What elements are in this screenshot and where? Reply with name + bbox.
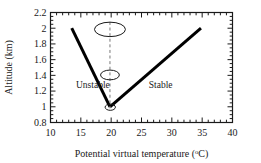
x-axis-tick-label: 10 xyxy=(46,127,56,138)
chart-figure: 101520253035400.811.21.41.61.822.2Altitu… xyxy=(0,0,261,163)
stable-region-label: Stable xyxy=(149,80,173,90)
y-axis-tick-label: 1.2 xyxy=(34,85,47,96)
x-axis-tick-label: 15 xyxy=(76,127,86,138)
y-axis-tick-label: 1.8 xyxy=(34,38,47,49)
altitude-vs-potential-virtual-temperature-chart: 101520253035400.811.21.41.61.822.2Altitu… xyxy=(0,0,261,163)
y-axis-tick-label: 0.8 xyxy=(34,117,47,128)
x-axis-title: Potential virtual temperature (oC) xyxy=(75,148,208,161)
y-axis-title: Altitude (km) xyxy=(3,40,15,95)
y-axis-tick-label: 2 xyxy=(42,23,47,34)
x-axis-tick-label: 35 xyxy=(197,127,207,138)
y-axis-tick-label: 1.6 xyxy=(34,54,47,65)
y-axis-tick-label: 1.4 xyxy=(34,70,47,81)
unstable-region-label: Unstable xyxy=(76,80,110,90)
chart-background xyxy=(0,0,261,163)
y-axis-tick-label: 2.2 xyxy=(34,7,47,18)
x-axis-tick-label: 20 xyxy=(106,127,116,138)
x-axis-tick-label: 30 xyxy=(167,127,177,138)
x-axis-tick-label: 25 xyxy=(137,127,147,138)
x-axis-tick-label: 40 xyxy=(228,127,238,138)
y-axis-tick-label: 1 xyxy=(42,101,47,112)
